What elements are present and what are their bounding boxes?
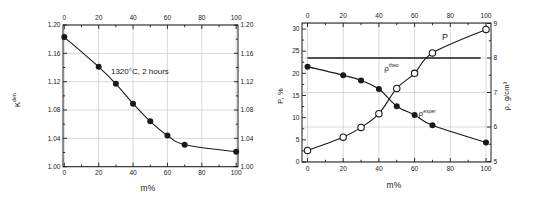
charts-canvas: 0020204040606080801001001.001.001.041.04… — [0, 0, 535, 202]
svg-text:1.00: 1.00 — [241, 163, 254, 170]
svg-text:1.16: 1.16 — [48, 50, 61, 57]
svg-text:25: 25 — [292, 47, 300, 54]
svg-text:30: 30 — [292, 25, 300, 32]
svg-text:40: 40 — [375, 12, 383, 19]
svg-text:0: 0 — [306, 165, 310, 172]
left-chart-tick-labels: 0020204040606080801001001.001.001.041.04… — [48, 14, 254, 176]
left-chart-ylabel-superscript: den — [11, 93, 17, 102]
right-chart-tick-labels: 0020204040606080801001000510152025305678… — [292, 12, 497, 172]
svg-text:7: 7 — [494, 89, 498, 96]
svg-text:1.20: 1.20 — [241, 21, 254, 28]
svg-text:60: 60 — [164, 14, 172, 21]
svg-text:1.12: 1.12 — [241, 78, 254, 85]
svg-text:0: 0 — [306, 12, 310, 19]
svg-text:1.08: 1.08 — [48, 106, 61, 113]
left-chart-ticks — [63, 25, 238, 167]
svg-text:5: 5 — [296, 136, 300, 143]
svg-text:1.12: 1.12 — [48, 78, 61, 85]
left-chart-grid — [63, 25, 238, 167]
right-chart-left-ylabel: P, % — [276, 88, 285, 104]
svg-text:80: 80 — [447, 165, 455, 172]
svg-text:100: 100 — [231, 14, 242, 21]
left-chart-ylabel: Kden — [12, 93, 23, 107]
svg-text:0: 0 — [62, 169, 66, 176]
right-chart-grid — [302, 23, 491, 162]
svg-text:20: 20 — [95, 14, 103, 21]
svg-text:1.08: 1.08 — [241, 106, 254, 113]
svg-text:1.04: 1.04 — [241, 135, 254, 142]
svg-text:1.16: 1.16 — [241, 50, 254, 57]
svg-text:60: 60 — [164, 169, 172, 176]
right-chart: 0020204040606080801001000510152025305678… — [292, 12, 497, 172]
svg-text:5: 5 — [494, 158, 498, 165]
svg-text:100: 100 — [231, 169, 242, 176]
left-chart-annotation-0: 1320°C, 2 hours — [111, 67, 169, 76]
svg-text:0: 0 — [62, 14, 66, 21]
right-chart-annotation-2: ρexper — [419, 109, 436, 119]
svg-text:15: 15 — [292, 92, 300, 99]
left-chart-xlabel: m% — [140, 183, 155, 193]
svg-text:60: 60 — [411, 12, 419, 19]
left-chart: 0020204040606080801001001.001.001.041.04… — [48, 14, 254, 176]
right-chart-series-rho-exper — [305, 64, 490, 146]
svg-text:0: 0 — [296, 158, 300, 165]
figure: 0020204040606080801001001.001.001.041.04… — [0, 0, 535, 202]
right-chart-annotation-1: ρtheo — [384, 63, 398, 73]
svg-text:20: 20 — [292, 70, 300, 77]
svg-text:40: 40 — [129, 169, 137, 176]
left-chart-series-K — [61, 34, 239, 155]
svg-text:60: 60 — [411, 165, 419, 172]
left-chart-ylabel-base: K — [13, 102, 22, 107]
svg-text:1.20: 1.20 — [48, 21, 61, 28]
svg-text:40: 40 — [375, 165, 383, 172]
svg-text:80: 80 — [198, 169, 206, 176]
svg-text:9: 9 — [494, 20, 498, 27]
svg-text:80: 80 — [447, 12, 455, 19]
svg-text:40: 40 — [129, 14, 137, 21]
svg-text:100: 100 — [480, 165, 491, 172]
svg-text:6: 6 — [494, 123, 498, 130]
svg-text:1.00: 1.00 — [48, 163, 61, 170]
svg-text:20: 20 — [340, 12, 348, 19]
right-chart-annotation-0: P — [442, 32, 448, 42]
svg-text:1.04: 1.04 — [48, 135, 61, 142]
right-chart-right-ylabel: ρ, g/cm³ — [502, 82, 511, 111]
svg-text:10: 10 — [292, 114, 300, 121]
svg-text:20: 20 — [95, 169, 103, 176]
svg-text:8: 8 — [494, 54, 498, 61]
svg-text:80: 80 — [198, 14, 206, 21]
svg-text:100: 100 — [480, 12, 491, 19]
left-chart-frame — [63, 25, 238, 167]
svg-text:20: 20 — [340, 165, 348, 172]
right-chart-xlabel: m% — [386, 180, 401, 190]
